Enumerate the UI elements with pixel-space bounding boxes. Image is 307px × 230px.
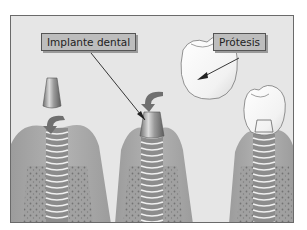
implant-pointer-line <box>91 53 145 120</box>
stage-1-abutment <box>43 78 61 108</box>
implant-label: Implante dental <box>41 33 136 51</box>
stage-2-gum <box>115 112 193 223</box>
curved-arrow-icon-2 <box>141 92 163 112</box>
stage-1-gum <box>11 125 111 223</box>
prosthesis-label: Prótesis <box>213 33 266 51</box>
stage-3-gum <box>229 130 294 223</box>
stage-3-crown <box>244 85 285 135</box>
diagram-frame: Implante dental Prótesis <box>10 15 294 223</box>
